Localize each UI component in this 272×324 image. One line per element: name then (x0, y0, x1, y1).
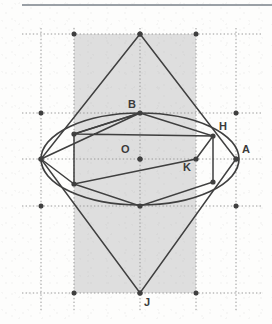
figure-canvas: B O A H K J (0, 0, 272, 324)
point-label-h: H (219, 121, 227, 132)
point-label-k: K (183, 162, 191, 173)
point-label-o: O (121, 144, 130, 155)
point-label-b: B (128, 99, 136, 110)
point-label-a: A (242, 144, 250, 155)
geometry-figure (0, 0, 272, 324)
point-label-j: J (144, 297, 150, 308)
